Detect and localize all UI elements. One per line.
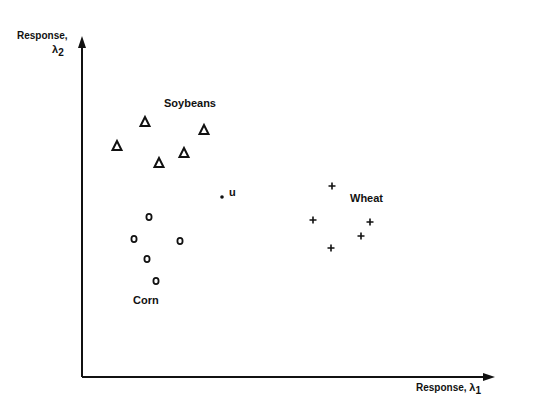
circle-marker xyxy=(153,278,158,284)
label-wheat: Wheat xyxy=(350,192,383,204)
y-axis-arrowhead xyxy=(78,36,86,48)
plus-marker xyxy=(367,219,374,226)
y-axis-symbol: λ2 xyxy=(52,43,64,58)
triangle-marker xyxy=(200,125,209,134)
label-soybeans: Soybeans xyxy=(164,97,216,109)
subscript: 2 xyxy=(58,47,64,58)
triangle-marker xyxy=(155,158,164,167)
y-axis-label: Response, xyxy=(17,30,68,41)
circle-marker xyxy=(146,214,151,220)
circle-marker xyxy=(131,236,136,242)
subscript: 1 xyxy=(475,385,481,396)
triangle-marker xyxy=(113,141,122,150)
label-corn: Corn xyxy=(133,294,159,306)
triangle-marker xyxy=(180,148,189,157)
circle-marker xyxy=(177,238,182,244)
plus-marker xyxy=(328,245,335,252)
plus-marker xyxy=(329,183,336,190)
triangle-marker xyxy=(141,117,150,126)
label-u: u xyxy=(229,186,236,198)
scatter-plot xyxy=(0,0,543,402)
y-axis-label-text: Response, xyxy=(17,30,68,41)
plus-marker xyxy=(358,233,365,240)
x-axis-label-text: Response, xyxy=(416,382,467,393)
x-axis-arrowhead xyxy=(483,373,495,381)
x-axis-label: Response, λ1 xyxy=(416,381,481,396)
circle-marker xyxy=(144,256,149,262)
plus-marker xyxy=(310,217,317,224)
dot-marker xyxy=(220,195,224,199)
